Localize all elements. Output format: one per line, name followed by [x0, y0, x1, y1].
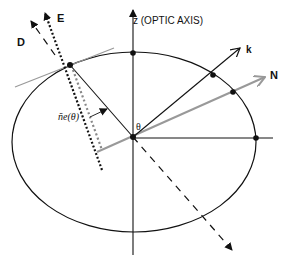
ne-theta-label: ñe(θ)	[58, 112, 79, 122]
top-dot	[130, 50, 136, 56]
d-arrow	[31, 21, 55, 55]
e-dotted-lower	[73, 70, 102, 150]
e-label: E	[57, 13, 64, 24]
theta-label: θ	[136, 122, 141, 132]
n-intersection-dot	[230, 89, 236, 95]
n-label: N	[270, 70, 278, 81]
index-ellipse	[12, 52, 256, 232]
n-gray-arrow	[97, 77, 265, 152]
ne-dimension-arrow	[90, 109, 107, 117]
k-intersection-dot	[210, 72, 216, 78]
d-dashed-line	[133, 137, 232, 250]
index-ellipse-diagram	[0, 0, 288, 261]
d-label: D	[17, 37, 25, 48]
k-label: k	[246, 45, 252, 55]
z-axis-label: z (OPTIC AXIS)	[133, 16, 203, 26]
right-dot	[253, 135, 259, 141]
tangent-point-dot	[67, 62, 73, 68]
radius-line	[70, 65, 133, 137]
origin-dot	[130, 134, 136, 140]
